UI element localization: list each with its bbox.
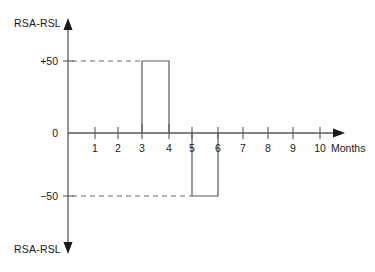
- x-label-2: 2: [115, 142, 121, 154]
- x-label-7: 7: [240, 142, 246, 154]
- x-label-10: 10: [314, 142, 326, 154]
- y-label-zero: 0: [52, 127, 58, 139]
- x-axis-units-label: Months: [331, 142, 365, 154]
- rsa-rsl-step-chart: RSA-RSL RSA-RSL +50 0 −50 1 2 3 4 5 6 7 …: [0, 0, 375, 272]
- y-axis-title-top: RSA-RSL: [14, 17, 61, 29]
- x-label-3: 3: [139, 142, 145, 154]
- chart-container: RSA-RSL RSA-RSL +50 0 −50 1 2 3 4 5 6 7 …: [0, 0, 375, 272]
- pulse-positive-month-3-to-4: [142, 61, 169, 133]
- x-label-6: 6: [215, 142, 221, 154]
- y-axis-down-arrow-icon: [64, 242, 73, 254]
- x-axis-right-arrow-icon: [333, 129, 345, 138]
- x-label-9: 9: [290, 142, 296, 154]
- y-label-plus-50: +50: [40, 55, 58, 67]
- y-axis-up-arrow-icon: [64, 18, 73, 30]
- x-label-4: 4: [166, 142, 172, 154]
- y-axis-title-bottom: RSA-RSL: [14, 243, 61, 255]
- x-label-8: 8: [265, 142, 271, 154]
- x-label-5: 5: [189, 142, 195, 154]
- x-label-1: 1: [92, 142, 98, 154]
- y-label-minus-50: −50: [40, 190, 58, 202]
